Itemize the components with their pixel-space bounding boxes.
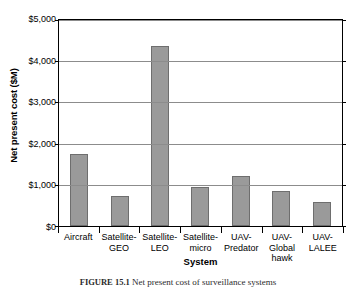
y-axis-tick-mark — [55, 61, 59, 62]
y-axis-tick-mark — [55, 102, 59, 103]
gridline — [59, 102, 342, 103]
gridline — [59, 144, 342, 145]
bar-slot — [302, 20, 342, 226]
gridline — [59, 185, 342, 186]
y-axis-tick-label: $2,000 — [28, 139, 56, 149]
bar[interactable] — [272, 191, 290, 226]
y-axis-tick-mark — [342, 144, 346, 145]
x-axis-tick-mark — [343, 227, 344, 233]
bar-slot — [140, 20, 180, 226]
bar-slot — [99, 20, 139, 226]
y-axis-tick-label: $0 — [46, 222, 56, 232]
bar[interactable] — [70, 154, 88, 226]
figure-caption: FIGURE 15.1 Net present cost of surveill… — [0, 277, 356, 287]
y-axis-tick-mark — [342, 20, 346, 21]
bar-slot — [261, 20, 301, 226]
figure-container: Net present cost ($M) $0$1,000$2,000$3,0… — [0, 0, 356, 289]
bar[interactable] — [232, 176, 250, 226]
plot-area — [58, 19, 343, 227]
gridline — [59, 20, 342, 21]
bar[interactable] — [313, 202, 331, 226]
y-axis-tick-label: $3,000 — [28, 97, 56, 107]
y-axis-title-text: Net present cost ($M) — [8, 68, 19, 163]
x-axis-title: System — [58, 256, 343, 267]
y-axis-tick-mark — [342, 61, 346, 62]
bar-slot — [180, 20, 220, 226]
bar[interactable] — [151, 46, 169, 226]
bar-slot — [59, 20, 99, 226]
y-axis-tick-mark — [55, 20, 59, 21]
bar-slot — [221, 20, 261, 226]
y-axis-tick-mark — [55, 185, 59, 186]
y-axis-tick-mark — [342, 185, 346, 186]
y-axis-tick-mark — [55, 144, 59, 145]
y-axis-tick-label: $1,000 — [28, 180, 56, 190]
y-axis-tick-mark — [342, 102, 346, 103]
figure-caption-text: Net present cost of surveillance systems — [132, 277, 276, 287]
bar-series — [59, 20, 342, 226]
bar[interactable] — [111, 196, 129, 226]
y-axis-tick-label: $4,000 — [28, 56, 56, 66]
y-axis-tick-label: $5,000 — [28, 14, 56, 24]
y-axis-tick-labels: $0$1,000$2,000$3,000$4,000$5,000 — [20, 19, 56, 227]
bar[interactable] — [191, 187, 209, 226]
gridline — [59, 61, 342, 62]
figure-caption-label: FIGURE 15.1 — [80, 277, 130, 287]
